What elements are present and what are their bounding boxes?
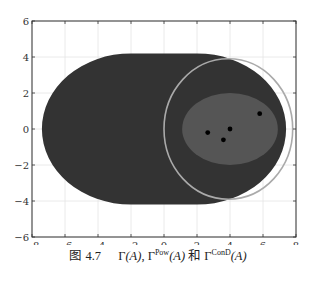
y-tick-label: −2 — [14, 160, 29, 171]
y-tick-label: 2 — [23, 88, 29, 99]
y-tick-label: −6 — [14, 232, 29, 243]
caption-gamma-cond: ΓConD(A) — [204, 249, 246, 263]
y-tick-label: 0 — [23, 124, 29, 135]
data-point — [205, 130, 210, 135]
caption-gamma-pow: ΓPow(A) — [148, 249, 185, 263]
regions — [42, 53, 293, 204]
data-point — [228, 127, 233, 132]
data-point — [221, 137, 226, 142]
figure-number: 图 4.7 — [69, 249, 101, 263]
chart: −8−6−4−202468 −6−4−20246 — [0, 0, 316, 245]
y-tick-label: 4 — [23, 52, 29, 63]
y-tick-label: −4 — [14, 196, 29, 207]
data-point — [257, 111, 262, 116]
caption-gamma: Γ(A), — [118, 249, 147, 263]
figure-caption: 图 4.7 Γ(A), ΓPow(A) 和 ΓConD(A) — [0, 245, 316, 264]
caption-and: 和 — [188, 249, 204, 263]
y-tick-label: 6 — [23, 16, 29, 27]
